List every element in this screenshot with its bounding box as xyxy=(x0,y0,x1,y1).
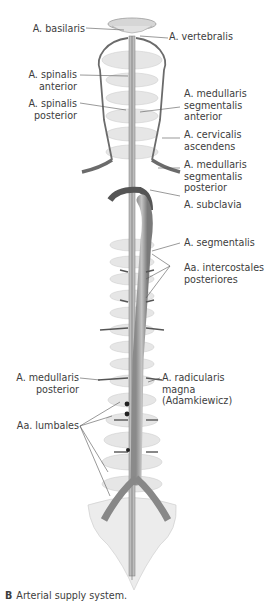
label-line: posterior xyxy=(28,110,77,122)
label-line: posterior xyxy=(184,182,247,194)
label-line: anterior xyxy=(28,81,77,93)
label-medullaris-posterior: A. medullaris posterior xyxy=(16,372,79,395)
caption-text: Arterial supply system. xyxy=(16,590,127,601)
label-line: A. spinalis xyxy=(28,98,77,110)
label-line: A. radicularis xyxy=(162,372,232,384)
label-medullaris-segmentalis-anterior: A. medullaris segmentalis anterior xyxy=(184,88,247,123)
label-line: anterior xyxy=(184,111,247,123)
caption-letter: B xyxy=(5,590,12,601)
label-line: magna xyxy=(162,384,232,396)
label-basilaris: A. basilaris xyxy=(33,23,85,35)
label-line: (Adamkiewicz) xyxy=(162,395,232,407)
figure-caption: BArterial supply system. xyxy=(5,590,127,601)
label-line: ascendens xyxy=(184,141,241,153)
label-lumbales: Aa. lumbales xyxy=(17,420,79,432)
label-line: posterior xyxy=(16,384,79,396)
label-line: A. medullaris xyxy=(184,88,247,100)
label-line: segmentalis xyxy=(184,100,247,112)
label-intercostales-posteriores: Aa. intercostales posteriores xyxy=(184,262,264,285)
label-subclavia: A. subclavia xyxy=(184,199,242,211)
label-line: A. medullaris xyxy=(184,159,247,171)
label-medullaris-segmentalis-posterior: A. medullaris segmentalis posterior xyxy=(184,159,247,194)
label-line: A. spinalis xyxy=(28,69,77,81)
label-segmentalis: A. segmentalis xyxy=(184,237,255,249)
label-cervicalis-ascendens: A. cervicalis ascendens xyxy=(184,129,241,152)
label-vertebralis: A. vertebralis xyxy=(169,31,233,43)
label-line: segmentalis xyxy=(184,171,247,183)
label-radicularis-magna: A. radicularis magna (Adamkiewicz) xyxy=(162,372,232,407)
label-line: A. cervicalis xyxy=(184,129,241,141)
label-spinalis-posterior: A. spinalis posterior xyxy=(28,98,77,121)
label-line: posteriores xyxy=(184,274,264,286)
label-line: Aa. intercostales xyxy=(184,262,264,274)
label-spinalis-anterior: A. spinalis anterior xyxy=(28,69,77,92)
label-line: A. medullaris xyxy=(16,372,79,384)
